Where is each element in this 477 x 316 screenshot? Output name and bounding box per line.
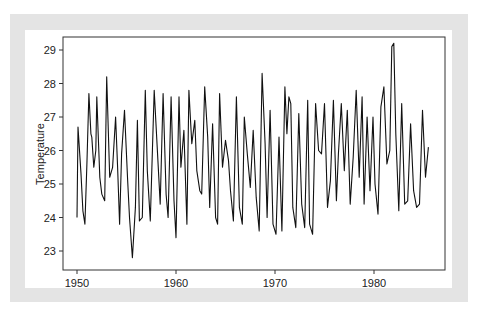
y-tick-label: 23 [44,245,56,257]
x-tick-label: 1950 [65,277,89,289]
x-axis: 1950196019701980 [65,270,386,289]
temperature-line [77,43,428,257]
y-axis-label: Temperature [34,123,46,185]
line-chart: 23242526272829 1950196019701980 Temperat… [0,0,477,316]
y-tick-label: 29 [44,44,56,56]
plot-area [63,37,445,270]
y-axis: 23242526272829 [44,44,63,257]
y-tick-label: 28 [44,78,56,90]
x-tick-label: 1960 [164,277,188,289]
x-tick-label: 1970 [263,277,287,289]
y-tick-label: 24 [44,212,56,224]
y-tick-label: 27 [44,111,56,123]
x-tick-label: 1980 [362,277,386,289]
